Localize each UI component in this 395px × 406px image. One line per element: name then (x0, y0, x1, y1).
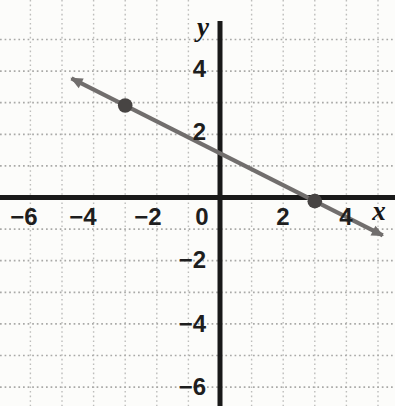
x-tick-label: −6 (10, 203, 37, 230)
y-tick-label: −2 (179, 246, 206, 273)
y-tick-label: 4 (193, 55, 207, 82)
graph-figure: −6 −4 −2 0 2 4 4 2 −2 −4 −6 x y (0, 0, 395, 406)
x-tick-label: −2 (134, 203, 161, 230)
y-tick-label: −6 (179, 373, 206, 400)
y-tick-label: 2 (193, 118, 206, 145)
y-tick-label: −4 (179, 310, 207, 337)
x-tick-label: 0 (195, 203, 208, 230)
plotted-point (308, 194, 323, 209)
y-axis-label: y (194, 12, 210, 42)
coordinate-plane: −6 −4 −2 0 2 4 4 2 −2 −4 −6 x y (0, 0, 395, 406)
x-axis-label: x (371, 196, 386, 226)
plotted-point (118, 98, 133, 113)
x-tick-label: −4 (69, 203, 97, 230)
x-tick-label: 2 (276, 203, 289, 230)
x-tick-label: 4 (339, 203, 353, 230)
plot-labels: −6 −4 −2 0 2 4 4 2 −2 −4 −6 x y (10, 12, 385, 400)
